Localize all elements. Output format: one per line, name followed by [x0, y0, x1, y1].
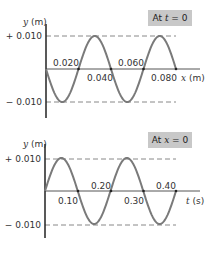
bottom-ytick-neg: − 0.010 — [5, 220, 41, 230]
wave-diagrams: y (m) + 0.010 − 0.010 0.020 0.040 0.060 … — [0, 0, 211, 254]
top-xtick: 0.060 — [118, 58, 144, 68]
top-ytick-neg: − 0.010 — [6, 97, 42, 107]
top-ylabel: y (m) — [22, 17, 47, 27]
bottom-xlabel: t (s) — [186, 196, 204, 206]
bottom-ytick-pos: + 0.010 — [5, 154, 41, 164]
top-chart: y (m) + 0.010 − 0.010 0.020 0.040 0.060 … — [6, 17, 205, 118]
top-xtick: 0.020 — [53, 58, 79, 68]
top-ytick-pos: + 0.010 — [6, 31, 42, 41]
bottom-ylabel: y (m) — [22, 139, 47, 149]
bottom-xtick: 0.40 — [156, 181, 176, 191]
bottom-xtick: 0.30 — [124, 196, 144, 206]
top-xlabel: x (m) — [181, 73, 205, 83]
bottom-xtick: 0.10 — [58, 196, 78, 206]
top-xtick: 0.040 — [87, 73, 113, 83]
bottom-xtick: 0.20 — [91, 181, 111, 191]
top-xtick: 0.080 — [151, 73, 177, 83]
bottom-chart: y (m) + 0.010 − 0.010 0.10 0.20 0.30 0.4… — [5, 139, 204, 238]
